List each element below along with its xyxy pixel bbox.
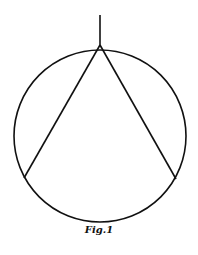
left-chord <box>24 45 100 178</box>
figure-caption: Fig.1 <box>0 224 198 235</box>
right-chord <box>100 45 176 179</box>
geometric-figure <box>0 0 198 255</box>
circle <box>14 50 186 222</box>
